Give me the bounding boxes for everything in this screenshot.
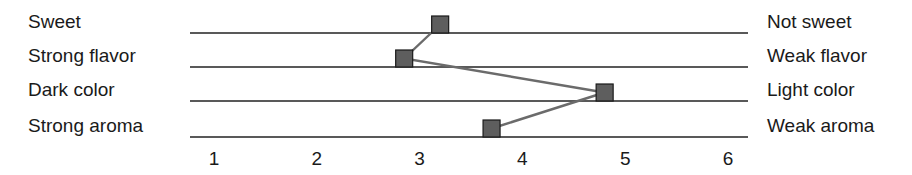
x-tick-label: 2 <box>312 148 323 169</box>
data-point-marker <box>396 50 413 67</box>
left-anchor-label: Strong flavor <box>28 45 136 66</box>
data-point-marker <box>596 84 613 101</box>
profile-line <box>404 25 604 129</box>
right-anchor-label: Weak aroma <box>767 115 875 136</box>
x-tick-label: 3 <box>414 148 425 169</box>
x-tick-label: 4 <box>517 148 528 169</box>
right-anchor-label: Not sweet <box>767 11 852 32</box>
x-tick-label: 6 <box>723 148 734 169</box>
data-point-marker <box>483 120 500 137</box>
profile-series <box>396 16 613 137</box>
x-axis-ticks: 123456 <box>209 148 734 169</box>
left-anchor-label: Dark color <box>28 79 115 100</box>
right-anchor-label: Weak flavor <box>767 45 868 66</box>
left-anchor-label: Sweet <box>28 11 82 32</box>
semantic-differential-chart: SweetNot sweetStrong flavorWeak flavorDa… <box>0 0 912 175</box>
scale-rows: SweetNot sweetStrong flavorWeak flavorDa… <box>28 11 875 137</box>
left-anchor-label: Strong aroma <box>28 115 144 136</box>
data-point-marker <box>432 16 449 33</box>
x-tick-label: 5 <box>620 148 631 169</box>
x-tick-label: 1 <box>209 148 220 169</box>
right-anchor-label: Light color <box>767 79 855 100</box>
